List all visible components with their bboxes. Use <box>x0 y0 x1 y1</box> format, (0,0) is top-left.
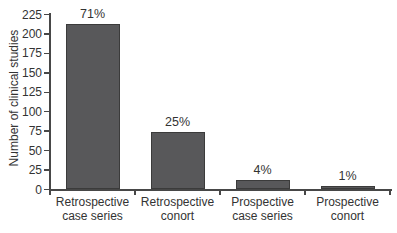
bar-percent-label: 25% <box>135 115 220 130</box>
y-axis-tick-label: 50 <box>0 144 42 158</box>
y-axis-tick <box>44 53 50 55</box>
bar-percent-label: 1% <box>305 169 390 184</box>
category-label-line: conort <box>331 209 364 223</box>
y-axis-tick-label: 150 <box>0 66 42 80</box>
y-axis-tick-label: 200 <box>0 27 42 41</box>
y-axis-tick-label: 175 <box>0 46 42 60</box>
clinical-studies-bar-chart: Number of clinical studies 0255075100125… <box>0 0 397 233</box>
bar-retrospective-conort <box>151 132 205 190</box>
category-label-line: Retrospective <box>56 195 129 209</box>
x-axis-tick <box>49 190 51 195</box>
bar-prospective-conort <box>321 186 375 189</box>
category-label-line: case series <box>232 209 293 223</box>
x-axis-tick <box>389 190 391 195</box>
bar-percent-label: 71% <box>50 7 135 22</box>
category-label-line: case series <box>62 209 123 223</box>
category-label-line: Prospective <box>316 195 379 209</box>
x-axis-tick <box>219 190 221 195</box>
y-axis-tick <box>44 72 50 74</box>
category-label-line: Prospective <box>231 195 294 209</box>
y-axis-tick <box>44 33 50 35</box>
y-axis-tick-label: 100 <box>0 105 42 119</box>
category-label-prospective-case-series: Prospective case series <box>220 196 305 223</box>
category-label-retrospective-conort: Retrospective conort <box>135 196 220 223</box>
category-label-prospective-conort: Prospective conort <box>305 196 390 223</box>
y-axis-tick <box>44 169 50 171</box>
bar-prospective-case-series <box>236 180 290 189</box>
x-axis-tick <box>134 190 136 195</box>
category-label-retrospective-case-series: Retrospective case series <box>50 196 135 223</box>
x-axis-tick <box>304 190 306 195</box>
category-label-line: conort <box>161 209 194 223</box>
y-axis-tick-label: 75 <box>0 124 42 138</box>
y-axis-tick <box>44 92 50 94</box>
bar-percent-label: 4% <box>220 163 305 178</box>
y-axis-line <box>49 13 51 191</box>
y-axis-tick-label: 0 <box>0 183 42 197</box>
category-label-line: Retrospective <box>141 195 214 209</box>
y-axis-tick-label: 125 <box>0 85 42 99</box>
y-axis-tick-label: 25 <box>0 163 42 177</box>
bar-retrospective-case-series <box>66 24 120 190</box>
y-axis-tick-label: 225 <box>0 8 42 22</box>
y-axis-tick <box>44 111 50 113</box>
y-axis-tick <box>44 150 50 152</box>
y-axis-tick <box>44 130 50 132</box>
